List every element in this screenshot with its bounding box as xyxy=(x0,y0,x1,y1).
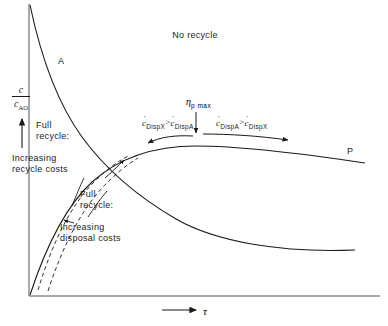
arrow-left-region xyxy=(148,136,193,143)
ineq-right-operator: > xyxy=(239,117,244,127)
y-axis-label: c cAO xyxy=(8,84,34,111)
label-curve-a: A xyxy=(58,56,64,67)
label-full-recycle-upper: Full recycle: xyxy=(36,120,69,142)
label-increasing-recycle-costs: Increasing recycle costs xyxy=(12,153,68,175)
curve-p-product xyxy=(30,146,365,295)
ineq-right-rhs-sub: DispX xyxy=(249,123,268,130)
y-axis-denominator-subscript: AO xyxy=(19,104,28,111)
ineq-left-operator: > xyxy=(165,117,170,127)
eta-subscript: p max xyxy=(191,102,211,109)
arrow-right-region xyxy=(203,134,288,140)
label-curve-p: P xyxy=(347,146,353,157)
x-axis-label: τ xyxy=(203,305,207,317)
ineq-left-rhs: c xyxy=(171,118,175,128)
label-increasing-disposal-costs: Increasing disposal costs xyxy=(60,222,121,244)
label-inequality-right: cDispA>cDispX xyxy=(216,117,268,132)
ineq-right-lhs-sub: DispA xyxy=(220,123,239,130)
ineq-right-rhs: c xyxy=(245,118,249,128)
y-axis-numerator: c xyxy=(8,84,34,96)
ineq-left-lhs: c xyxy=(142,118,146,128)
label-no-recycle: No recycle xyxy=(140,30,250,41)
figure-root: c cAO τ No recycle A P Full recycle: Inc… xyxy=(0,0,388,326)
label-full-recycle-lower: Full recycle: xyxy=(80,189,113,211)
y-axis-denominator: cAO xyxy=(8,97,34,111)
ineq-left-rhs-sub: DispA xyxy=(175,123,194,130)
label-eta-p-max: ηp max xyxy=(186,96,211,109)
ineq-right-lhs: c xyxy=(216,118,220,128)
ineq-left-lhs-sub: DispX xyxy=(146,123,165,130)
label-inequality-left: cDispX>cDispA xyxy=(142,117,194,132)
